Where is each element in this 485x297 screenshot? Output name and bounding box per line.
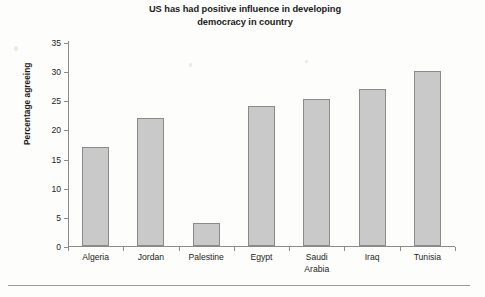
- x-tick-label-line-2: Arabia: [289, 264, 344, 276]
- chart-title-line-1: US has had positive influence in develop…: [60, 3, 430, 16]
- y-tick-label: 15: [51, 155, 61, 165]
- bar: [193, 223, 220, 246]
- bar: [359, 89, 386, 246]
- bar: [137, 118, 164, 246]
- x-tick-mark: [344, 247, 345, 251]
- x-tick-mark: [289, 247, 290, 251]
- x-tick-label: Iraq: [344, 252, 399, 264]
- y-tick-mark: [64, 218, 68, 219]
- x-tick-mark: [455, 247, 456, 251]
- x-tick-label: SaudiArabia: [289, 252, 344, 275]
- chart-title-line-2: democracy in country: [60, 16, 430, 29]
- x-tick-mark: [123, 247, 124, 251]
- y-tick-mark: [64, 189, 68, 190]
- x-tick-mark: [68, 247, 69, 251]
- bar: [414, 71, 441, 246]
- x-tick-label-line-1: Saudi: [306, 252, 328, 262]
- x-tick-mark: [400, 247, 401, 251]
- x-axis-line: [68, 246, 455, 247]
- x-tick-label-line-1: Palestine: [189, 252, 224, 262]
- y-tick-label: 25: [51, 96, 61, 106]
- bar: [248, 106, 275, 246]
- y-tick-label: 10: [51, 184, 61, 194]
- scan-speckle: [14, 46, 18, 51]
- chart-title: US has had positive influence in develop…: [60, 3, 430, 29]
- y-tick-mark: [64, 43, 68, 44]
- x-tick-label-line-1: Iraq: [365, 252, 380, 262]
- x-tick-label-line-1: Egypt: [250, 252, 272, 262]
- x-tick-label: Tunisia: [400, 252, 455, 264]
- page-background: US has had positive influence in develop…: [0, 0, 485, 297]
- x-tick-label-line-1: Jordan: [138, 252, 164, 262]
- y-tick-mark: [64, 72, 68, 73]
- y-axis-title: Percentage agreeing: [22, 63, 32, 145]
- bar: [82, 147, 109, 246]
- y-tick-label: 30: [51, 67, 61, 77]
- y-tick-label: 35: [51, 38, 61, 48]
- y-tick-mark: [64, 160, 68, 161]
- y-tick-label: 0: [56, 242, 61, 252]
- x-tick-label: Jordan: [123, 252, 178, 264]
- page-divider-rule: [8, 285, 470, 286]
- x-tick-label: Algeria: [68, 252, 123, 264]
- y-tick-label: 20: [51, 125, 61, 135]
- bar: [303, 99, 330, 246]
- y-axis-line: [68, 41, 69, 247]
- x-tick-mark: [234, 247, 235, 251]
- plot-area: 05101520253035: [68, 43, 455, 247]
- x-tick-mark: [179, 247, 180, 251]
- x-tick-label-line-1: Algeria: [82, 252, 109, 262]
- x-tick-label: Palestine: [179, 252, 234, 264]
- x-tick-label-line-1: Tunisia: [414, 252, 441, 262]
- y-tick-mark: [64, 130, 68, 131]
- y-tick-label: 5: [56, 213, 61, 223]
- x-tick-label: Egypt: [234, 252, 289, 264]
- y-tick-mark: [64, 101, 68, 102]
